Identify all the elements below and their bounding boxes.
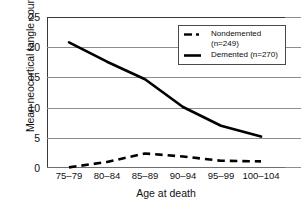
chart-figure: Mean neocortical tangle count 25 20 15 1… [0,0,301,208]
y-tick-0: 0 [18,163,40,173]
x-tick-90-94: 90–94 [170,170,196,182]
x-tick-85-89: 85–89 [132,170,158,182]
gridline-extension-5 [285,138,301,139]
y-tick-20: 20 [18,42,40,52]
gridline-extension-25 [285,17,301,18]
x-tick-80-84: 80–84 [94,170,120,182]
y-tick-5: 5 [18,133,40,143]
gridline-extension-15 [285,77,301,78]
x-tick-75-79: 75–79 [56,170,82,182]
gridline-extension-10 [285,108,301,109]
x-tick-100-104: 100–104 [243,170,280,182]
y-tick-15: 15 [18,72,40,82]
y-tick-10: 10 [18,103,40,113]
gridline-extension-20 [285,47,301,48]
legend-label-nondemented: Nondemented (n=249) [211,29,261,48]
series-line-nondemented [69,154,261,168]
legend-label-demented: Demented (n=270) [211,50,278,60]
dashed-line-marker-icon [183,29,207,40]
solid-line-marker-icon [183,50,207,61]
y-tick-25: 25 [18,12,40,22]
legend-item-demented: Demented (n=270) [183,50,281,61]
chart-legend: Nondemented (n=249) Demented (n=270) [178,25,286,65]
x-axis-title: Age at death [47,187,285,199]
x-axis-tick-labels: 75–79 80–84 85–89 90–94 95–99 100–104 [47,170,285,184]
legend-item-nondemented: Nondemented (n=249) [183,29,281,48]
y-axis-tick-labels: 25 20 15 10 5 0 [18,0,40,208]
gridline-extension-0 [285,167,301,168]
x-tick-95-99: 95–99 [208,170,234,182]
